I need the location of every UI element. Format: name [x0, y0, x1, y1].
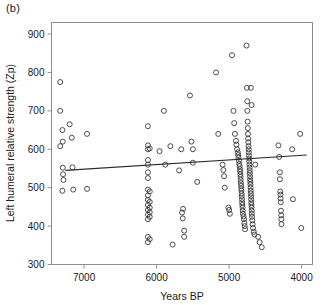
data-point — [58, 144, 63, 149]
data-point — [245, 126, 250, 131]
data-point — [216, 131, 221, 136]
data-point — [231, 108, 236, 113]
data-point — [290, 197, 295, 202]
x-tick-label: 7000 — [73, 272, 96, 283]
data-point — [161, 108, 166, 113]
data-point — [60, 165, 65, 170]
data-point — [245, 99, 250, 104]
data-point — [257, 240, 262, 245]
data-point — [61, 177, 66, 182]
data-point — [61, 172, 66, 177]
data-point — [60, 139, 65, 144]
data-point — [187, 93, 192, 98]
data-point — [85, 131, 90, 136]
data-point — [245, 108, 250, 113]
y-tick-label: 400 — [28, 221, 45, 232]
data-point — [60, 128, 65, 133]
data-point — [244, 43, 249, 48]
y-tick-label: 900 — [28, 29, 45, 40]
data-point — [276, 143, 281, 148]
y-tick-label: 800 — [28, 67, 45, 78]
y-tick-label: 700 — [28, 105, 45, 116]
data-point — [70, 165, 75, 170]
data-point — [179, 147, 184, 152]
figure-panel-b: (b) 300400500600700800900 70006000500040… — [0, 0, 325, 305]
data-point — [180, 216, 185, 221]
data-point — [220, 162, 225, 167]
data-point — [190, 147, 195, 152]
x-tick-label: 5000 — [218, 272, 241, 283]
data-point — [71, 187, 76, 192]
data-point — [232, 131, 237, 136]
data-point — [58, 80, 63, 85]
data-point — [222, 174, 227, 179]
data-point — [157, 149, 162, 154]
data-point — [145, 124, 150, 129]
data-point — [290, 147, 295, 152]
data-point — [299, 226, 304, 231]
data-point — [256, 234, 261, 239]
data-point — [222, 185, 227, 190]
data-point — [277, 177, 282, 182]
data-point — [279, 222, 284, 227]
data-point — [145, 170, 150, 175]
y-axis-ticks: 300400500600700800900 — [28, 29, 52, 270]
data-point — [177, 168, 182, 173]
data-point — [230, 53, 235, 58]
data-point — [189, 139, 194, 144]
data-point — [214, 70, 219, 75]
y-axis-title: Left humeral relative strength (Zp) — [4, 64, 16, 222]
data-point — [182, 228, 187, 233]
x-axis-title: Years BP — [160, 290, 203, 302]
data-point — [195, 179, 200, 184]
data-point — [298, 131, 303, 136]
scatter-plot: 300400500600700800900 7000600050004000 Y… — [0, 0, 325, 305]
trend-line — [65, 155, 306, 170]
data-point — [182, 234, 187, 239]
plot-frame — [52, 23, 313, 265]
data-point — [67, 122, 72, 127]
y-tick-label: 600 — [28, 144, 45, 155]
data-point — [232, 121, 237, 126]
data-point — [221, 168, 226, 173]
data-point — [58, 108, 63, 113]
data-point — [168, 144, 173, 149]
data-point — [249, 103, 254, 108]
data-point — [245, 119, 250, 124]
y-tick-label: 500 — [28, 182, 45, 193]
data-point — [145, 176, 150, 181]
data-point — [259, 245, 264, 250]
data-point — [253, 162, 258, 167]
x-axis-ticks: 7000600050004000 — [73, 265, 313, 283]
x-tick-label: 6000 — [146, 272, 169, 283]
data-point — [69, 135, 74, 140]
data-point — [170, 242, 175, 247]
data-point — [60, 188, 65, 193]
data-points — [58, 43, 304, 250]
data-point — [243, 227, 248, 232]
x-tick-label: 4000 — [291, 272, 314, 283]
data-point — [85, 186, 90, 191]
data-point — [277, 170, 282, 175]
y-tick-label: 300 — [28, 259, 45, 270]
